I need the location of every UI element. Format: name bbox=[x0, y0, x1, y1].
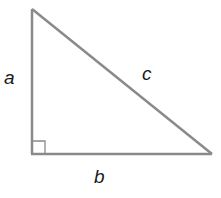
label-a: a bbox=[4, 67, 15, 88]
label-c: c bbox=[142, 63, 152, 84]
right-angle-marker-icon bbox=[32, 141, 45, 154]
label-b: b bbox=[94, 166, 105, 187]
right-triangle-diagram: a c b bbox=[0, 0, 221, 198]
side-c-hypotenuse-line bbox=[32, 9, 212, 154]
triangle bbox=[31, 9, 212, 154]
